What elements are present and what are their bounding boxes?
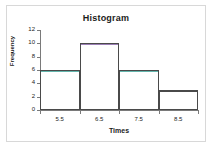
y-tick-label: 0 bbox=[17, 106, 35, 112]
histogram-figure: Histogram Frequency Times 024681012 5.56… bbox=[0, 0, 212, 148]
bar-top-edge bbox=[160, 91, 198, 92]
y-tick-mark bbox=[37, 57, 40, 58]
histogram-bar bbox=[80, 43, 120, 110]
plot-area: 024681012 5.56.57.58.5 bbox=[40, 30, 198, 112]
bar-top-edge bbox=[120, 71, 158, 72]
y-tick-label: 8 bbox=[17, 53, 35, 59]
y-tick-mark bbox=[37, 30, 40, 31]
y-tick-label: 10 bbox=[17, 39, 35, 45]
y-tick-label: 6 bbox=[17, 66, 35, 72]
y-axis-label: Frequency bbox=[9, 21, 15, 81]
chart-title: Histogram bbox=[0, 13, 212, 23]
x-tick-label: 5.5 bbox=[48, 116, 72, 122]
y-tick-mark bbox=[37, 43, 40, 44]
y-tick-label: 12 bbox=[17, 26, 35, 32]
bar-top-edge bbox=[41, 71, 79, 72]
x-tick-mark bbox=[80, 110, 81, 114]
y-tick-label: 4 bbox=[17, 79, 35, 85]
x-tick-mark bbox=[198, 110, 199, 114]
x-tick-mark bbox=[40, 110, 41, 114]
y-tick-label: 2 bbox=[17, 93, 35, 99]
x-tick-mark bbox=[119, 110, 120, 114]
x-axis-label: Times bbox=[40, 127, 198, 134]
histogram-bar bbox=[159, 90, 199, 110]
bar-top-edge bbox=[81, 44, 119, 45]
x-tick-label: 7.5 bbox=[127, 116, 151, 122]
histogram-bar bbox=[119, 70, 159, 110]
x-tick-mark bbox=[159, 110, 160, 114]
x-tick-label: 8.5 bbox=[166, 116, 190, 122]
x-tick-label: 6.5 bbox=[87, 116, 111, 122]
histogram-bar bbox=[40, 70, 80, 110]
